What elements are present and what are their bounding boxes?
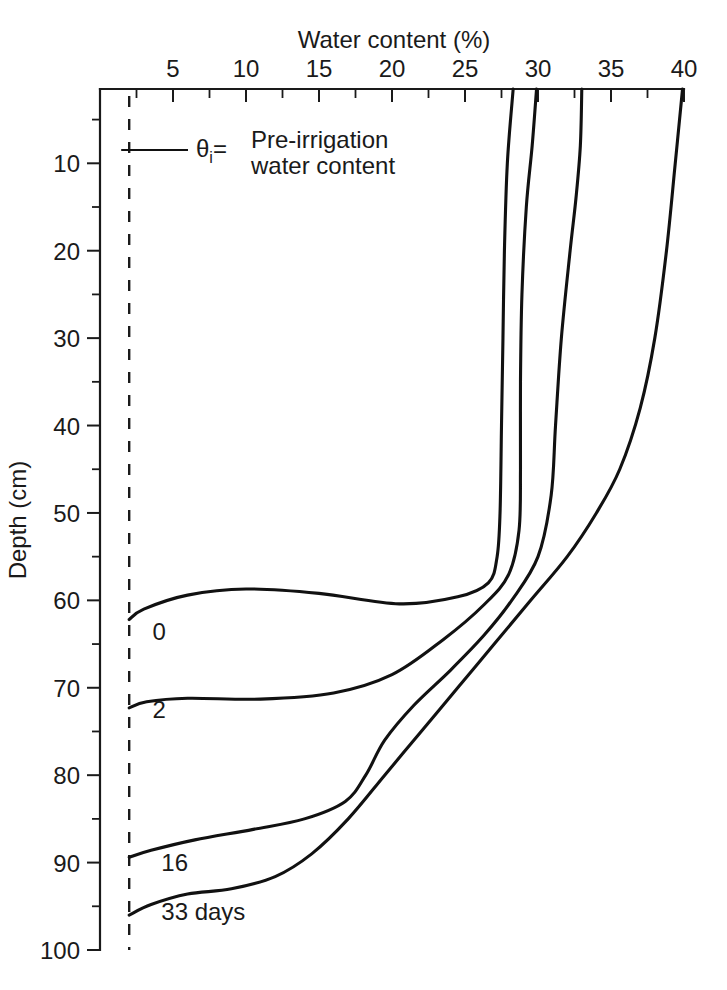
y-tick-label: 60 — [53, 587, 80, 614]
curve-label-2: 2 — [153, 696, 166, 723]
legend-line-2: water content — [250, 152, 395, 179]
x-tick-label: 15 — [306, 55, 333, 82]
curve-label-16: 16 — [161, 849, 188, 876]
x-tick-label: 5 — [166, 55, 179, 82]
data-curves — [129, 89, 682, 915]
y-axis-ticks — [87, 120, 100, 950]
curve-label-33-days: 33 days — [161, 898, 245, 925]
chart-svg: Water content (%) Depth (cm) 51015202530… — [0, 0, 727, 990]
water-content-depth-figure: Water content (%) Depth (cm) 51015202530… — [0, 0, 727, 990]
y-tick-label: 90 — [53, 850, 80, 877]
curve-33-days — [129, 89, 682, 915]
curve-2 — [129, 89, 536, 708]
y-tick-label: 20 — [53, 238, 80, 265]
x-axis-title: Water content (%) — [298, 26, 491, 53]
x-axis-ticks — [137, 89, 685, 102]
y-tick-label: 50 — [53, 500, 80, 527]
x-tick-label: 25 — [452, 55, 479, 82]
y-axis-title: Depth (cm) — [4, 461, 31, 580]
legend-line-1: Pre-irrigation — [251, 126, 388, 153]
curve-16 — [129, 89, 582, 857]
x-tick-label: 30 — [525, 55, 552, 82]
y-tick-label: 10 — [53, 150, 80, 177]
x-tick-label: 20 — [379, 55, 406, 82]
curve-labels: 021633 days — [153, 618, 246, 926]
y-tick-label: 100 — [40, 937, 80, 964]
x-tick-label: 35 — [598, 55, 625, 82]
y-tick-label: 30 — [53, 325, 80, 352]
y-tick-label: 80 — [53, 762, 80, 789]
y-tick-label: 40 — [53, 413, 80, 440]
x-tick-label: 10 — [233, 55, 260, 82]
theta-symbol: θi= — [196, 135, 227, 166]
theta-glyph: θ — [196, 135, 209, 162]
x-axis-tick-labels: 510152025303540 — [166, 55, 697, 82]
y-axis-tick-labels: 102030405060708090100 — [40, 150, 80, 964]
y-tick-label: 70 — [53, 675, 80, 702]
curve-label-0: 0 — [153, 618, 166, 645]
x-tick-label: 40 — [671, 55, 698, 82]
theta-equals: = — [213, 135, 227, 162]
